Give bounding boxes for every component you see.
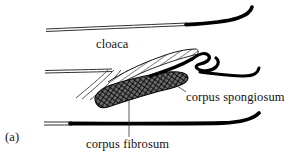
label-corpus-spongiosum: corpus spongiosum [186,91,285,104]
label-corpus-fibrosum: corpus fibrosum [86,138,169,151]
middle-wall-structure [45,69,112,73]
panel-label: (a) [5,131,19,144]
figure-panel-a: cloaca corpus spongiosum corpus fibrosum… [0,0,293,156]
dorsal-wall-structure [46,7,252,32]
ventral-wall-structure [44,113,259,125]
label-cloaca: cloaca [96,38,129,51]
anatomical-diagram [0,0,293,156]
